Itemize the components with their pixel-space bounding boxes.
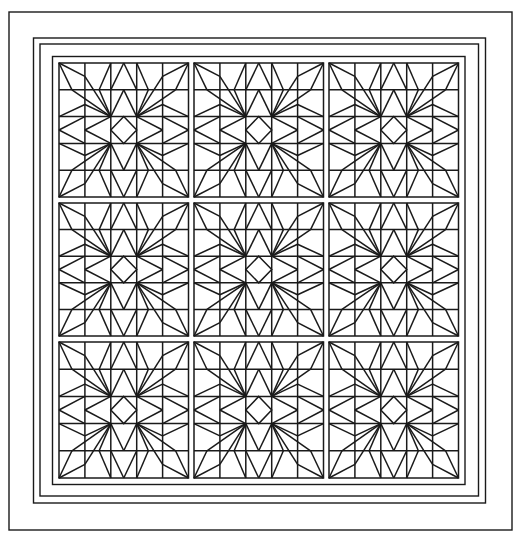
quilt-block xyxy=(329,342,459,478)
star-line xyxy=(163,410,189,424)
star-line xyxy=(163,424,189,436)
center-diamond xyxy=(111,117,137,144)
star-line xyxy=(163,384,189,396)
star-line xyxy=(124,203,137,230)
star-line xyxy=(194,143,220,155)
star-line xyxy=(381,170,394,197)
star-line xyxy=(329,410,355,424)
star-line xyxy=(246,203,259,230)
star-line xyxy=(259,203,272,230)
star-line xyxy=(59,396,85,410)
star-line xyxy=(329,117,355,130)
star-line xyxy=(220,117,246,130)
star-line xyxy=(381,369,394,396)
star-line xyxy=(394,283,407,310)
star-line xyxy=(259,451,272,478)
star-line xyxy=(407,203,419,230)
star-line xyxy=(246,424,259,451)
star-line xyxy=(124,283,137,310)
star-line xyxy=(163,130,189,143)
center-diamond xyxy=(381,117,407,144)
star-line xyxy=(259,283,272,310)
star-line xyxy=(381,451,394,478)
star-line xyxy=(259,309,272,336)
quilt-block xyxy=(194,342,324,478)
star-line xyxy=(381,309,394,336)
star-line xyxy=(137,342,149,369)
star-line xyxy=(433,384,459,396)
star-line xyxy=(394,90,407,117)
star-line xyxy=(59,105,85,117)
star-line xyxy=(137,270,163,283)
star-line xyxy=(111,230,124,257)
star-line xyxy=(246,342,259,369)
inner-border xyxy=(53,57,466,485)
star-line xyxy=(246,283,259,310)
star-line xyxy=(85,396,111,410)
star-line xyxy=(111,90,124,117)
center-diamond xyxy=(111,396,137,423)
star-line xyxy=(329,283,355,295)
star-line xyxy=(381,342,394,369)
star-line xyxy=(59,384,85,396)
star-line xyxy=(137,396,163,410)
star-line xyxy=(111,309,124,336)
star-line xyxy=(124,170,137,197)
star-line xyxy=(194,270,220,283)
star-line xyxy=(329,105,355,117)
star-line xyxy=(85,410,111,424)
star-line xyxy=(137,130,163,143)
star-line xyxy=(194,384,220,396)
star-line xyxy=(329,396,355,410)
star-line xyxy=(137,451,149,478)
star-line xyxy=(329,244,355,256)
star-line xyxy=(124,309,137,336)
border-2 xyxy=(34,38,486,503)
center-diamond xyxy=(246,256,272,283)
star-line xyxy=(381,203,394,230)
star-line xyxy=(394,342,407,369)
star-line xyxy=(272,256,298,269)
star-line xyxy=(369,451,381,478)
star-line xyxy=(99,451,111,478)
star-line xyxy=(394,309,407,336)
star-line xyxy=(298,283,324,295)
star-line xyxy=(234,451,246,478)
center-diamond xyxy=(246,396,272,423)
quilt-drawing xyxy=(0,0,519,540)
star-line xyxy=(163,283,189,295)
star-line xyxy=(220,270,246,283)
star-line xyxy=(124,143,137,170)
star-line xyxy=(433,424,459,436)
star-line xyxy=(137,170,149,197)
star-line xyxy=(59,270,85,283)
star-line xyxy=(137,203,149,230)
star-line xyxy=(85,270,111,283)
star-line xyxy=(234,342,246,369)
star-line xyxy=(381,63,394,90)
star-line xyxy=(259,424,272,451)
star-line xyxy=(272,270,298,283)
star-line xyxy=(194,130,220,143)
center-diamond xyxy=(381,396,407,423)
star-line xyxy=(381,90,394,117)
star-line xyxy=(407,410,433,424)
star-line xyxy=(99,309,111,336)
star-line xyxy=(259,143,272,170)
star-line xyxy=(298,117,324,130)
star-line xyxy=(234,203,246,230)
star-line xyxy=(99,342,111,369)
star-line xyxy=(99,170,111,197)
star-line xyxy=(124,230,137,257)
star-line xyxy=(246,369,259,396)
star-line xyxy=(298,396,324,410)
star-line xyxy=(394,143,407,170)
star-line xyxy=(59,130,85,143)
star-line xyxy=(234,170,246,197)
star-line xyxy=(272,130,298,143)
block-frame xyxy=(194,63,324,197)
star-line xyxy=(246,230,259,257)
star-line xyxy=(194,117,220,130)
star-line xyxy=(433,256,459,269)
star-line xyxy=(194,424,220,436)
